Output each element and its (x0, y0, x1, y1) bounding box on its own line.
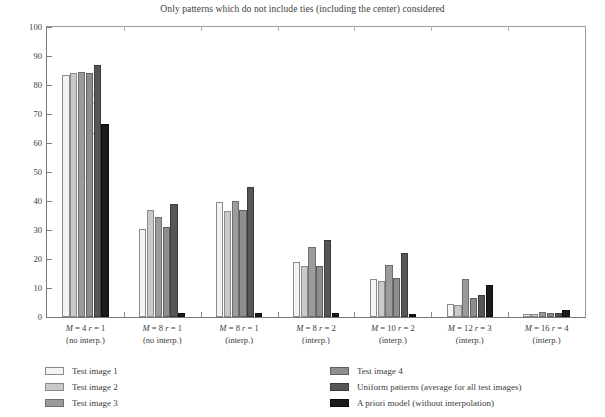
plot-area: Runs level 2 patterns (%) 01020304050607… (46, 26, 586, 318)
x-label-interp: (interp.) (431, 335, 508, 347)
x-label-m-symbol: M (296, 323, 303, 333)
y-tick-label: 10 (17, 283, 47, 293)
x-label-m-symbol: M (371, 323, 378, 333)
bar-group (62, 27, 108, 317)
x-tick-mark-top (124, 26, 125, 31)
x-label-m-symbol: M (525, 323, 532, 333)
legend-label: Test image 4 (357, 366, 403, 376)
bar (385, 265, 392, 317)
bar (370, 279, 377, 317)
y-tick-mark (47, 201, 52, 202)
bar (62, 75, 69, 317)
legend-label: Uniform patterns (average for all test i… (357, 382, 521, 392)
x-tick-mark-top (431, 26, 432, 31)
y-tick-mark (47, 85, 52, 86)
y-tick-mark (47, 172, 52, 173)
bar (293, 262, 300, 317)
legend-item[interactable]: A priori model (without interpolation) (330, 396, 521, 410)
bar-group (293, 27, 339, 317)
legend-swatch-icon (45, 383, 64, 391)
bar (178, 313, 185, 317)
x-tick-mark-top (508, 26, 509, 31)
x-label-r-symbol: r (398, 323, 401, 333)
legend-swatch-icon (330, 399, 349, 407)
legend-swatch-icon (330, 383, 349, 391)
page-title: Only patterns which do not include ties … (0, 4, 605, 14)
legend: Test image 1Test image 2Test image 3 Tes… (0, 364, 605, 417)
x-tick-label: M = 8 r = 1(no interp.) (124, 323, 201, 346)
legend-item[interactable]: Test image 1 (45, 364, 118, 378)
bar-group (216, 27, 262, 317)
y-tick-label: 60 (17, 138, 47, 148)
x-tick-mark-top (201, 26, 202, 31)
x-label-interp: (interp.) (278, 335, 355, 347)
bar (393, 278, 400, 317)
bar (139, 229, 146, 317)
bar (531, 314, 538, 317)
x-tick-mark (201, 312, 202, 317)
y-tick-label: 50 (17, 167, 47, 177)
legend-label: Test image 2 (72, 382, 118, 392)
y-tick-mark (47, 259, 52, 260)
bar (401, 253, 408, 317)
bar (539, 312, 546, 317)
x-tick-mark-top (354, 26, 355, 31)
x-label-m-symbol: M (219, 323, 226, 333)
x-tick-label: M = 8 r = 1(interp.) (201, 323, 278, 346)
bar (247, 187, 254, 318)
y-tick-mark (47, 143, 52, 144)
x-tick-label: M = 10 r = 2(interp.) (354, 323, 431, 346)
legend-swatch-icon (45, 399, 64, 407)
x-tick-mark-top (278, 26, 279, 31)
x-label-interp: (interp.) (354, 335, 431, 347)
bar (78, 72, 85, 317)
y-tick-label: 100 (17, 22, 47, 32)
x-label-r-symbol: r (165, 323, 168, 333)
legend-item[interactable]: Test image 3 (45, 396, 118, 410)
legend-item[interactable]: Uniform patterns (average for all test i… (330, 380, 521, 394)
legend-label: A priori model (without interpolation) (357, 398, 494, 408)
x-tick-label: M = 12 r = 3(interp.) (431, 323, 508, 346)
y-tick-mark (47, 288, 52, 289)
bar (378, 281, 385, 317)
y-tick-mark (47, 317, 52, 318)
bar-group (523, 27, 569, 317)
x-tick-mark (508, 312, 509, 317)
bar (447, 304, 454, 317)
bar (224, 211, 231, 317)
y-tick-label: 20 (17, 254, 47, 264)
x-label-m-symbol: M (142, 323, 149, 333)
bar (216, 202, 223, 317)
bar (332, 313, 339, 317)
x-label-interp: (no interp.) (47, 335, 124, 347)
bar-group (370, 27, 416, 317)
bar-chart-figure: Only patterns which do not include ties … (0, 0, 605, 417)
y-tick-mark (47, 230, 52, 231)
bar (562, 310, 569, 317)
legend-item[interactable]: Test image 2 (45, 380, 118, 394)
y-tick-label: 40 (17, 196, 47, 206)
legend-column-left: Test image 1Test image 2Test image 3 (45, 364, 118, 412)
x-tick-mark (124, 312, 125, 317)
legend-column-right: Test image 4Uniform patterns (average fo… (330, 364, 521, 412)
bar (70, 73, 77, 317)
bar (86, 73, 93, 317)
bar (555, 313, 562, 317)
bar (547, 313, 554, 317)
legend-item[interactable]: Test image 4 (330, 364, 521, 378)
y-tick-mark (47, 27, 52, 28)
y-tick-label: 0 (17, 312, 47, 322)
x-tick-label: M = 4 r = 1(no interp.) (47, 323, 124, 346)
bar (255, 313, 262, 317)
y-tick-label: 80 (17, 80, 47, 90)
bar (454, 305, 461, 317)
y-tick-mark (47, 114, 52, 115)
bar (163, 227, 170, 317)
x-tick-mark (431, 312, 432, 317)
bar (324, 240, 331, 317)
x-label-r-symbol: r (319, 323, 322, 333)
bar (470, 298, 477, 317)
bar (101, 124, 108, 317)
x-label-r-symbol: r (242, 323, 245, 333)
y-tick-label: 30 (17, 225, 47, 235)
